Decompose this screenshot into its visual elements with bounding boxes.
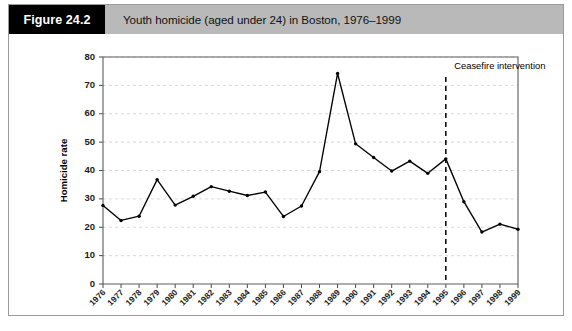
figure-header-bar: Figure 24.2 Youth homicide (aged under 2… bbox=[9, 5, 563, 34]
x-tick-label: 1997 bbox=[466, 287, 486, 307]
series-data-point bbox=[264, 190, 267, 193]
x-tick-label: 1978 bbox=[123, 287, 143, 307]
line-chart: 01020304050607080 1976197719781979198019… bbox=[9, 34, 563, 315]
ceasefire-intervention-label: Ceasefire intervention bbox=[454, 60, 545, 71]
series-points-group bbox=[101, 72, 519, 234]
x-tick-label: 1982 bbox=[195, 287, 215, 307]
x-axis-ticks-group: 1976197719781979198019811982198319841985… bbox=[87, 284, 522, 308]
y-tick-label: 20 bbox=[84, 221, 95, 232]
x-tick-label: 1984 bbox=[232, 287, 252, 307]
chart-plot-area: 01020304050607080 1976197719781979198019… bbox=[9, 34, 563, 315]
series-line-homicide-rate bbox=[103, 73, 518, 232]
x-tick-label: 1985 bbox=[250, 287, 270, 307]
series-data-point bbox=[300, 204, 303, 207]
series-data-point bbox=[444, 157, 447, 160]
x-tick-label: 1980 bbox=[159, 287, 179, 307]
series-data-point bbox=[228, 190, 231, 193]
x-tick-label: 1981 bbox=[177, 287, 197, 307]
y-axis-title: Homicide rate bbox=[58, 139, 69, 202]
x-tick-label: 1983 bbox=[213, 287, 233, 307]
series-data-point bbox=[192, 195, 195, 198]
y-tick-label: 50 bbox=[84, 136, 95, 147]
y-tick-label: 40 bbox=[84, 164, 95, 175]
y-tick-label: 10 bbox=[84, 249, 95, 260]
x-tick-label: 1993 bbox=[394, 287, 414, 307]
x-tick-label: 1989 bbox=[322, 287, 342, 307]
series-data-point bbox=[516, 228, 519, 231]
series-data-point bbox=[408, 159, 411, 162]
series-data-point bbox=[354, 142, 357, 145]
series-data-point bbox=[390, 169, 393, 172]
series-data-point bbox=[372, 156, 375, 159]
x-tick-label: 1990 bbox=[340, 287, 360, 307]
x-tick-label: 1992 bbox=[376, 287, 396, 307]
series-data-point bbox=[210, 185, 213, 188]
x-tick-label: 1998 bbox=[484, 287, 504, 307]
x-tick-label: 1988 bbox=[304, 287, 324, 307]
series-data-point bbox=[173, 203, 176, 206]
gridlines-group bbox=[103, 57, 518, 256]
series-data-point bbox=[119, 219, 122, 222]
figure-caption: Youth homicide (aged under 24) in Boston… bbox=[105, 13, 401, 26]
figure-root: Figure 24.2 Youth homicide (aged under 2… bbox=[0, 0, 572, 331]
series-data-point bbox=[462, 200, 465, 203]
series-data-point bbox=[101, 204, 104, 207]
figure-number-label: Figure 24.2 bbox=[9, 5, 105, 34]
x-tick-label: 1991 bbox=[358, 287, 378, 307]
y-tick-label: 30 bbox=[84, 192, 95, 203]
x-tick-label: 1999 bbox=[502, 287, 522, 307]
x-tick-label: 1979 bbox=[141, 287, 161, 307]
series-data-point bbox=[137, 214, 140, 217]
x-tick-label: 1996 bbox=[448, 287, 468, 307]
series-data-point bbox=[282, 215, 285, 218]
series-data-point bbox=[426, 172, 429, 175]
x-tick-label: 1987 bbox=[286, 287, 306, 307]
x-tick-label: 1994 bbox=[412, 287, 432, 307]
series-data-point bbox=[246, 194, 249, 197]
series-data-point bbox=[318, 170, 321, 173]
x-tick-label: 1986 bbox=[268, 287, 288, 307]
annotation-group: Ceasefire intervention bbox=[446, 60, 546, 284]
y-tick-label: 70 bbox=[84, 79, 95, 90]
series-data-point bbox=[336, 72, 339, 75]
x-tick-label: 1977 bbox=[105, 287, 125, 307]
x-tick-label: 1976 bbox=[87, 287, 107, 307]
series-data-point bbox=[480, 230, 483, 233]
y-tick-label: 60 bbox=[84, 107, 95, 118]
series-data-point bbox=[498, 222, 501, 225]
series-data-point bbox=[155, 178, 158, 181]
y-tick-label: 80 bbox=[84, 51, 95, 62]
x-tick-label: 1995 bbox=[430, 287, 450, 307]
y-axis-ticks-group: 01020304050607080 bbox=[84, 51, 103, 289]
y-tick-label: 0 bbox=[90, 278, 95, 289]
